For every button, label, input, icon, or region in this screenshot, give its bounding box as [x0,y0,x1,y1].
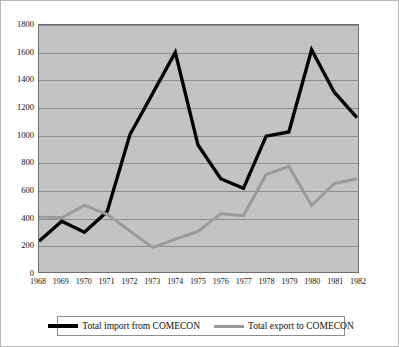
series-line-export [39,166,357,247]
x-axis-tick-label: 1981 [324,277,346,287]
plot-area [38,24,359,273]
legend-swatch-import [48,324,78,328]
legend-label-import: Total import from COMECON [82,321,200,331]
y-axis-tick-label: 200 [2,241,34,250]
x-axis-tick-label: 1982 [347,277,369,287]
x-axis-tick-label: 1980 [301,277,323,287]
chart-page: 020040060080010001200140016001800 196819… [0,0,399,347]
y-axis-tick-label: 1600 [2,48,34,57]
x-axis-tick-label: 1972 [118,277,140,287]
y-axis-tick-label: 1400 [2,75,34,84]
x-axis-tick-label: 1975 [187,277,209,287]
x-axis-tick-label: 1971 [96,277,118,287]
y-axis-tick-label: 600 [2,186,34,195]
legend-item-import: Total import from COMECON [48,321,200,331]
x-axis: 1968196919701971197219731974197519761977… [38,277,359,291]
x-axis-tick-label: 1973 [141,277,163,287]
x-axis-tick-label: 1969 [50,277,72,287]
y-axis-tick-label: 800 [2,158,34,167]
y-axis: 020040060080010001200140016001800 [1,1,34,281]
line-chart: 020040060080010001200140016001800 196819… [1,1,398,346]
x-axis-tick-label: 1968 [27,277,49,287]
y-axis-tick-label: 1800 [2,20,34,29]
legend-swatch-export [214,325,244,328]
x-axis-tick-label: 1976 [210,277,232,287]
x-axis-tick-label: 1977 [233,277,255,287]
x-axis-tick-label: 1979 [278,277,300,287]
chart-legend: Total import from COMECON Total export t… [57,316,345,336]
x-axis-tick-label: 1974 [164,277,186,287]
legend-label-export: Total export to COMECON [248,321,354,331]
x-axis-tick-label: 1978 [256,277,278,287]
y-axis-tick-label: 1000 [2,131,34,140]
y-axis-tick-label: 400 [2,214,34,223]
legend-item-export: Total export to COMECON [214,321,354,331]
y-axis-tick-label: 1200 [2,103,34,112]
series-lines [39,25,358,272]
series-line-import [39,50,357,241]
x-axis-tick-label: 1970 [73,277,95,287]
